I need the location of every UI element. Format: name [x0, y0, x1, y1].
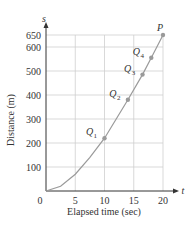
y-tick-label: 600 — [26, 42, 41, 53]
point-label: P — [156, 22, 163, 33]
x-axis-symbol: t — [182, 185, 185, 196]
y-tick-label: 300 — [26, 114, 41, 125]
x-tick-label: 20 — [158, 195, 168, 206]
data-point-marker — [102, 136, 106, 140]
y-axis-label: Distance (m) — [5, 94, 17, 146]
x-tick-label: 0 — [38, 195, 43, 206]
x-axis-arrow-icon — [173, 189, 179, 194]
distance-time-chart: 05101520100200300400500600650 Q1Q2Q3Q4P … — [0, 0, 192, 229]
data-point-marker — [161, 33, 165, 37]
x-tick-label: 5 — [73, 195, 78, 206]
data-point-marker — [126, 98, 130, 102]
y-tick-label: 400 — [26, 90, 41, 101]
axes — [44, 22, 180, 194]
x-tick-label: 15 — [129, 195, 139, 206]
point-label: Q2 — [109, 88, 121, 102]
point-label: Q4 — [133, 46, 145, 60]
labeled-points: Q1Q2Q3Q4P — [86, 22, 165, 140]
x-tick-label: 10 — [100, 195, 110, 206]
grid-lines — [46, 35, 163, 191]
y-axis-symbol: s — [42, 13, 46, 24]
data-point-marker — [140, 72, 144, 76]
y-tick-label: 100 — [26, 162, 41, 173]
x-axis-label: Elapsed time (sec) — [67, 206, 141, 218]
point-label: Q1 — [86, 126, 98, 140]
data-point-marker — [149, 56, 153, 60]
y-tick-label: 650 — [26, 30, 41, 41]
y-tick-label: 500 — [26, 66, 41, 77]
tick-labels: 05101520100200300400500600650 — [26, 30, 168, 207]
y-tick-label: 200 — [26, 138, 41, 149]
